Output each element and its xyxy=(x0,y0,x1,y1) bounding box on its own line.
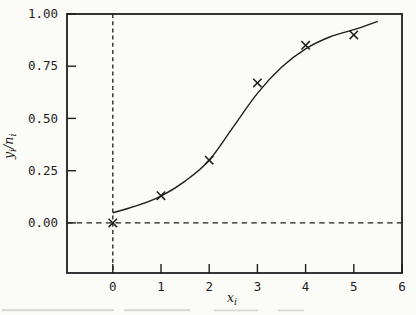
y-tick-label: 0.50 xyxy=(28,111,58,126)
x-tick-label: 3 xyxy=(254,279,262,294)
reference-lines xyxy=(67,14,402,273)
y-tick-label: 1.00 xyxy=(28,6,58,21)
chart-canvas: 01234560.000.250.500.751.00 xi yi/ni xyxy=(0,0,416,315)
fitted-curve xyxy=(113,21,378,213)
y-tick-label: 0.25 xyxy=(28,163,58,178)
data-marker xyxy=(253,79,261,87)
x-tick-label: 5 xyxy=(350,279,358,294)
data-marker xyxy=(350,31,358,39)
x-tick-label: 4 xyxy=(302,279,310,294)
x-tick-label: 1 xyxy=(157,279,165,294)
x-axis-label: xi xyxy=(227,290,237,307)
y-axis-label-denominator: n xyxy=(1,137,16,145)
data-marker xyxy=(157,192,165,200)
y-tick-label: 0.75 xyxy=(28,58,58,73)
axis-ticks xyxy=(67,14,402,273)
x-axis-label-subscript: i xyxy=(234,296,237,307)
data-markers xyxy=(109,31,358,227)
cropped-caption-remnant xyxy=(2,309,304,311)
y-tick-label: 0.00 xyxy=(28,215,58,230)
y-axis-label: yi/ni xyxy=(1,134,18,160)
plot-border xyxy=(67,14,402,273)
x-tick-label: 6 xyxy=(398,279,406,294)
x-tick-label: 2 xyxy=(205,279,213,294)
x-axis-label-base: x xyxy=(227,290,234,305)
y-axis-label-denominator-subscript: i xyxy=(7,134,18,137)
data-marker xyxy=(205,156,213,164)
x-tick-label: 0 xyxy=(109,279,117,294)
scanned-figure-page: 01234560.000.250.500.751.00 xi yi/ni xyxy=(0,0,416,315)
